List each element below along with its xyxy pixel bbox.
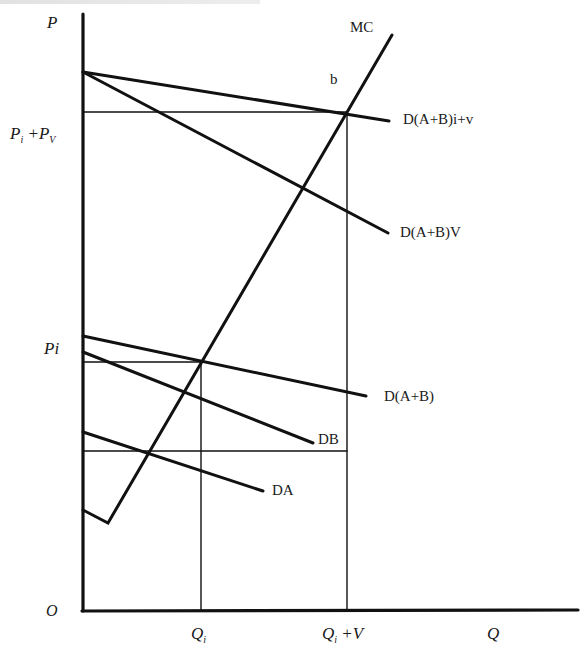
diagram-canvas xyxy=(0,0,587,661)
tick-pi-pv: Pi +PV xyxy=(10,125,55,145)
label-d-ab: D(A+B) xyxy=(384,389,434,404)
tick-qi: Qi xyxy=(191,625,206,645)
label-mc: MC xyxy=(350,20,373,35)
label-point-b: b xyxy=(330,72,338,87)
tick-qi-v: Qi +V xyxy=(322,625,363,645)
label-da: DA xyxy=(272,483,294,498)
x-axis-label: Q xyxy=(487,625,499,642)
label-d-ab-iv: D(A+B)i+v xyxy=(403,112,473,127)
origin-label: O xyxy=(46,603,58,619)
x-axis xyxy=(82,610,578,611)
curve-d-ab xyxy=(83,336,366,396)
tick-pi: Pi xyxy=(44,340,59,357)
curve-da xyxy=(83,432,263,491)
label-d-ab-v: D(A+B)V xyxy=(400,225,461,240)
curve-mc xyxy=(83,35,392,523)
label-db: DB xyxy=(318,432,339,447)
y-axis-label: P xyxy=(47,14,57,31)
